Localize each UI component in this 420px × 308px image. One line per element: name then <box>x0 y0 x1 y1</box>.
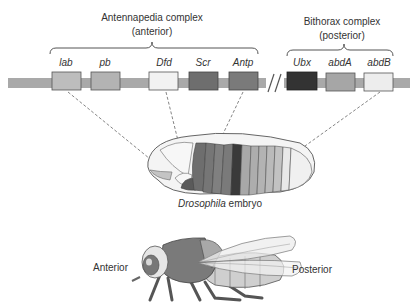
gene-label-antp: Antp <box>233 57 254 68</box>
gene-label-dfd: Dfd <box>156 57 172 68</box>
gene-box-pb <box>91 72 120 90</box>
gene-label-abda: abdA <box>328 57 351 68</box>
bithorax-brace <box>287 44 393 56</box>
antennapedia-subtitle: (anterior) <box>132 26 173 37</box>
gene-box-abda <box>326 73 355 91</box>
gene-box-abdb <box>364 73 393 91</box>
hox-diagram <box>0 0 420 308</box>
antennapedia-brace <box>50 42 258 54</box>
gene-box-antp <box>229 72 258 90</box>
bithorax-title: Bithorax complex <box>304 16 381 27</box>
gene-label-abdb: abdB <box>367 57 390 68</box>
gene-label-pb: pb <box>99 57 110 68</box>
gene-box-scr <box>189 72 218 90</box>
gene-label-ubx: Ubx <box>293 57 311 68</box>
embryo-caption-rest: embryo <box>226 198 262 209</box>
embryo-illustration <box>148 133 315 195</box>
embryo-caption: Drosophila embryo <box>178 198 262 209</box>
posterior-label: Posterior <box>292 264 332 275</box>
gene-label-lab: lab <box>59 57 72 68</box>
anterior-label: Anterior <box>93 262 128 273</box>
bithorax-subtitle: (posterior) <box>319 30 365 41</box>
adult-fly-illustration <box>132 236 301 300</box>
antennapedia-title: Antennapedia complex <box>101 12 203 23</box>
gene-label-scr: Scr <box>196 57 211 68</box>
gene-box-ubx <box>287 72 317 90</box>
embryo-caption-genus: Drosophila <box>178 198 226 209</box>
gene-box-lab <box>52 72 81 90</box>
gene-box-dfd <box>149 72 178 90</box>
